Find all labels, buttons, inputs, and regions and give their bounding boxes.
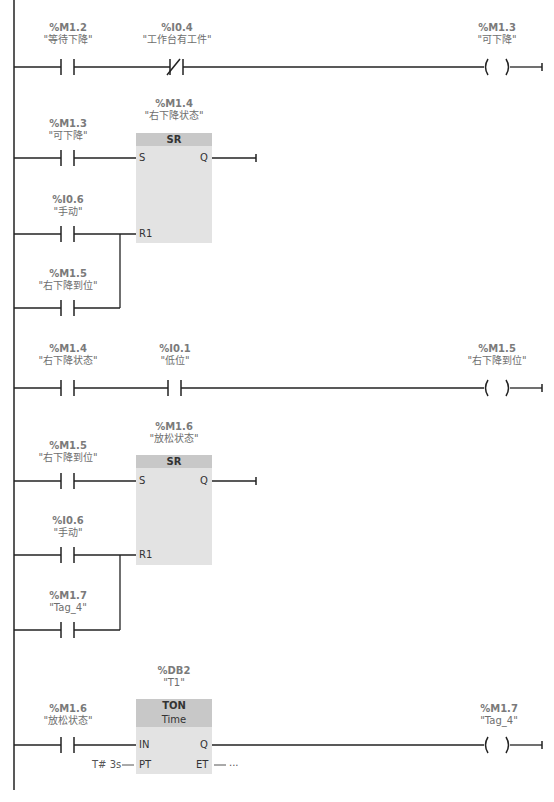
pin-q: Q: [200, 152, 208, 164]
block-type: SR: [136, 455, 212, 468]
coil-icon: [486, 59, 509, 75]
contact-no-icon: [168, 380, 181, 396]
contact-label: %I0.4 "工作台有工件": [142, 22, 211, 46]
contact-no-icon: [61, 547, 74, 563]
contact-label: %I0.6 "手动": [52, 515, 83, 539]
contact-no-icon: [61, 380, 74, 396]
contact-label: %M1.2 "等待下降": [43, 22, 92, 46]
pin-r1: R1: [139, 549, 152, 561]
contact-label: %I0.6 "手动": [52, 194, 83, 218]
contact-label: %M1.7 "Tag_4": [49, 590, 87, 614]
contact-no-icon: [61, 226, 74, 242]
block-type: SR: [136, 133, 212, 146]
coil-icon: [486, 380, 509, 396]
block-label: %M1.4 "右下降状态": [144, 98, 203, 122]
contact-no-icon: [61, 622, 74, 638]
contact-no-icon: [61, 59, 74, 75]
pin-s: S: [139, 152, 145, 164]
contact-label: %M1.3 "可下降": [48, 118, 87, 142]
pt-value[interactable]: T# 3s: [92, 759, 121, 771]
contact-label: %M1.6 "放松状态": [43, 703, 92, 727]
pin-pt: PT: [139, 759, 151, 771]
et-value[interactable]: ...: [229, 757, 239, 769]
contact-no-icon: [61, 737, 74, 753]
block-type: TON: [136, 699, 212, 713]
contact-nc-icon: [167, 59, 183, 75]
pin-et: ET: [196, 759, 208, 771]
contact-label: %M1.4 "右下降状态": [38, 343, 97, 367]
pin-r1: R1: [139, 228, 152, 240]
pin-in: IN: [139, 739, 149, 751]
sr-block[interactable]: SR: [136, 133, 212, 243]
contact-no-icon: [61, 473, 74, 489]
contact-label: %M1.5 "右下降到位": [38, 440, 97, 464]
coil-icon: [486, 737, 509, 753]
coil-label: %M1.7 "Tag_4": [480, 703, 518, 727]
block-label: %M1.6 "放松状态": [149, 421, 198, 445]
contact-label: %M1.5 "右下降到位": [38, 268, 97, 292]
coil-label: %M1.3 "可下降": [477, 22, 516, 46]
network-1: [14, 59, 542, 75]
pin-s: S: [139, 475, 145, 487]
contact-no-icon: [61, 300, 74, 316]
network-3: [14, 380, 542, 396]
coil-label: %M1.5 "右下降到位": [467, 343, 526, 367]
contact-no-icon: [61, 150, 74, 166]
contact-label: %I0.1 "低位": [159, 343, 190, 367]
pin-q: Q: [200, 739, 208, 751]
block-subtype: Time: [136, 713, 212, 727]
pin-q: Q: [200, 475, 208, 487]
block-label: %DB2 "T1": [158, 665, 191, 689]
